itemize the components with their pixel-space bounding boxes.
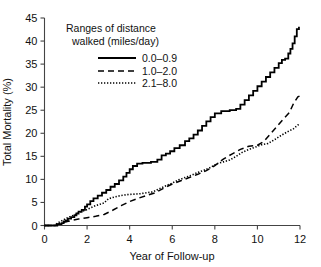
x-tick-label: 2 (84, 233, 90, 245)
y-tick-label: 25 (25, 104, 37, 116)
x-axis-ticks (45, 226, 301, 230)
y-tick-label: 5 (31, 196, 37, 208)
y-tick-label: 0 (31, 220, 37, 232)
y-tick-label: 40 (25, 35, 37, 47)
x-tick-label: 10 (251, 233, 263, 245)
chart-legend: Ranges of distance walked (miles/day) 0.… (66, 22, 177, 89)
legend-title-line2: walked (miles/day) (71, 35, 159, 47)
y-tick-label: 20 (25, 127, 37, 139)
chart-figure: 051015202530354045 024681012 Total Morta… (0, 0, 321, 267)
x-axis-tick-labels: 024681012 (41, 233, 306, 245)
x-tick-label: 12 (294, 233, 306, 245)
x-tick-label: 6 (169, 233, 175, 245)
y-axis-ticks (41, 18, 45, 226)
y-tick-label: 45 (25, 12, 37, 24)
legend-label-2: 2.1–8.0 (142, 77, 177, 89)
legend-title-line1: Ranges of distance (66, 22, 156, 34)
y-tick-label: 15 (25, 150, 37, 162)
y-axis-tick-labels: 051015202530354045 (25, 12, 37, 232)
x-tick-label: 0 (41, 233, 47, 245)
y-tick-label: 10 (25, 173, 37, 185)
legend-label-0: 0.0–0.9 (142, 52, 177, 64)
curve-dashed (45, 96, 301, 226)
y-axis-title: Total Mortality (%) (1, 78, 13, 166)
x-tick-label: 8 (212, 233, 218, 245)
y-tick-label: 30 (25, 81, 37, 93)
legend-label-1: 1.0–2.0 (142, 65, 177, 77)
curve-dotted (45, 125, 301, 226)
x-axis-title: Year of Follow-up (129, 250, 214, 262)
y-tick-label: 35 (25, 58, 37, 70)
x-tick-label: 4 (127, 233, 133, 245)
mortality-line-chart: 051015202530354045 024681012 Total Morta… (0, 0, 321, 267)
